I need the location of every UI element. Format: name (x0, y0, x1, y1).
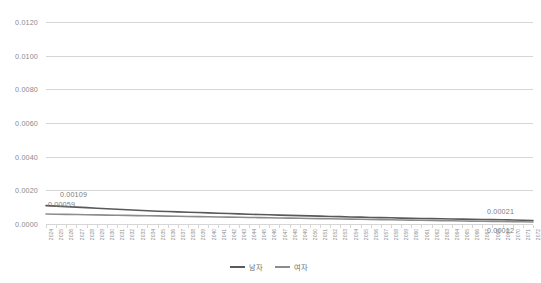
x-axis-tick-label: 2034 (150, 229, 156, 240)
x-axis-tick-label: 2036 (170, 229, 176, 240)
x-axis-tick-label: 2025 (58, 229, 64, 240)
data-label-male-end: 0.00021 (487, 207, 514, 216)
legend-swatch (230, 266, 245, 268)
x-axis-tick-label: 2052 (332, 229, 338, 240)
x-axis-tick-label: 2043 (241, 229, 247, 240)
x-axis-tickmark (107, 225, 108, 228)
x-axis-tickmark (381, 225, 382, 228)
data-label-male-start: 0.00109 (60, 190, 87, 199)
x-axis-tickmark (320, 225, 321, 228)
x-axis-tick-label: 2024 (48, 229, 54, 240)
x-axis-tickmark (300, 225, 301, 228)
x-axis-tick-label: 2040 (211, 229, 217, 240)
x-axis-tick-label: 2064 (454, 229, 460, 240)
x-axis-tickmark (432, 225, 433, 228)
x-axis-tick-label: 2061 (424, 229, 430, 240)
x-axis-tickmark (168, 225, 169, 228)
x-axis-tick-label: 2037 (180, 229, 186, 240)
x-axis-tickmark (188, 225, 189, 228)
x-axis-tickmark (472, 225, 473, 228)
x-axis-tickmark (249, 225, 250, 228)
x-axis-tickmark (421, 225, 422, 228)
legend-label: 남자 (249, 262, 263, 272)
x-axis-tick-label: 2060 (413, 229, 419, 240)
x-axis-tickmark (178, 225, 179, 228)
x-axis-tickmark (147, 225, 148, 228)
x-axis-tickmark (310, 225, 311, 228)
x-axis-tick-label: 2035 (160, 229, 166, 240)
x-axis-tickmark (533, 225, 534, 228)
x-axis-tickmark (239, 225, 240, 228)
x-axis-tickmark (229, 225, 230, 228)
x-axis-tickmark (158, 225, 159, 228)
x-axis-tick-label: 2028 (89, 229, 95, 240)
y-axis-tick-label: 0.0000 (15, 220, 38, 229)
plot-area (46, 22, 533, 224)
x-axis-tick-label: 2053 (342, 229, 348, 240)
x-axis-tickmark (127, 225, 128, 228)
x-axis-tick-label: 2033 (140, 229, 146, 240)
x-axis-tick-label: 2029 (99, 229, 105, 240)
chart-legend: 남자여자 (0, 262, 537, 272)
x-axis-tick-label: 2030 (109, 229, 115, 240)
x-axis-tickmark (46, 225, 47, 228)
x-axis-tick-label: 2032 (129, 229, 135, 240)
x-axis-tickmark (411, 225, 412, 228)
x-axis-tick-label: 2051 (322, 229, 328, 240)
x-axis-tick-label: 2048 (292, 229, 298, 240)
x-axis-tick-label: 2065 (464, 229, 470, 240)
y-axis-tick-label: 0.0060 (15, 119, 38, 128)
x-axis-tick-label: 2071 (525, 229, 531, 240)
x-axis-tickmark (76, 225, 77, 228)
x-axis-tick-label: 2050 (312, 229, 318, 240)
x-axis-tickmark (218, 225, 219, 228)
x-axis-tickmark (442, 225, 443, 228)
x-axis-tickmark (452, 225, 453, 228)
y-axis-tick-label: 0.0120 (15, 18, 38, 27)
x-axis-tick-label: 2041 (221, 229, 227, 240)
x-axis-tickmark (259, 225, 260, 228)
y-axis-tick-label: 0.0080 (15, 85, 38, 94)
x-axis-tickmark (87, 225, 88, 228)
x-axis: 2024202520262027202820292030203120322033… (46, 225, 533, 257)
x-axis-tickmark (371, 225, 372, 228)
y-axis-tick-label: 0.0100 (15, 51, 38, 60)
x-axis-tickmark (523, 225, 524, 228)
x-axis-tickmark (208, 225, 209, 228)
x-axis-tickmark (391, 225, 392, 228)
x-axis-tickmark (350, 225, 351, 228)
x-axis-tickmark (462, 225, 463, 228)
x-axis-tickmark (66, 225, 67, 228)
x-axis-tickmark (279, 225, 280, 228)
x-axis-tick-label: 2063 (444, 229, 450, 240)
x-axis-tickmark (137, 225, 138, 228)
x-axis-tick-label: 2044 (251, 229, 257, 240)
x-axis-tickmark (330, 225, 331, 228)
legend-item[interactable]: 여자 (275, 262, 308, 272)
x-axis-tick-label: 2039 (200, 229, 206, 240)
legend-label: 여자 (294, 262, 308, 272)
x-axis-tickmark (290, 225, 291, 228)
x-axis-tick-label: 2070 (515, 229, 521, 240)
x-axis-tick-label: 2049 (302, 229, 308, 240)
x-axis-tickmark (117, 225, 118, 228)
x-axis-tick-label: 2056 (373, 229, 379, 240)
x-axis-tick-label: 2027 (79, 229, 85, 240)
x-axis-tickmark (401, 225, 402, 228)
legend-swatch (275, 266, 290, 268)
x-axis-tick-label: 2066 (474, 229, 480, 240)
x-axis-tickmark (198, 225, 199, 228)
y-axis-tick-label: 0.0040 (15, 152, 38, 161)
x-axis-tick-label: 2055 (363, 229, 369, 240)
x-axis-tick-label: 2058 (393, 229, 399, 240)
x-axis-tickmark (340, 225, 341, 228)
x-axis-tickmark (97, 225, 98, 228)
y-axis-tick-label: 0.0020 (15, 186, 38, 195)
x-axis-tick-label: 2062 (434, 229, 440, 240)
x-axis-tick-label: 2026 (68, 229, 74, 240)
legend-item[interactable]: 남자 (230, 262, 263, 272)
x-axis-tickmark (56, 225, 57, 228)
x-axis-tick-label: 2047 (282, 229, 288, 240)
x-axis-tickmark (482, 225, 483, 228)
